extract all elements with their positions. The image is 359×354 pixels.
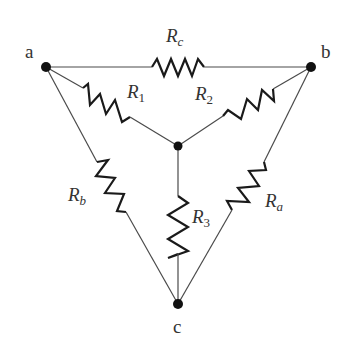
node-c-label: c (173, 317, 181, 336)
resistor-r1 (46, 67, 178, 146)
label-rb-base: R (68, 184, 80, 205)
label-ra-base: R (265, 190, 277, 211)
node-c-dot (173, 299, 183, 309)
label-r3-sub: 3 (204, 215, 211, 230)
node-b-label: b (321, 42, 331, 61)
node-b-dot (306, 62, 316, 72)
label-rc: Rc (166, 26, 183, 48)
node-a-dot (41, 62, 51, 72)
label-r1: R1 (127, 82, 145, 104)
resistor-r3 (168, 146, 188, 304)
label-rb-sub: b (80, 193, 87, 208)
label-rb: Rb (68, 185, 86, 207)
label-ra-sub: a (277, 199, 284, 214)
label-r1-sub: 1 (139, 90, 146, 105)
label-r2: R2 (195, 84, 213, 106)
label-r2-sub: 2 (207, 92, 214, 107)
label-rc-sub: c (178, 34, 184, 49)
label-rc-base: R (166, 25, 178, 46)
label-r3-base: R (192, 206, 204, 227)
label-r3: R3 (192, 207, 210, 229)
label-r1-base: R (127, 81, 139, 102)
label-ra: Ra (265, 191, 283, 213)
node-a-label: a (25, 42, 33, 61)
delta-wye-circuit-diagram: a b c Rc R1 R2 R3 Rb Ra (0, 0, 359, 354)
resistor-rb (46, 67, 178, 304)
label-r2-base: R (195, 83, 207, 104)
circuit-drawing (0, 0, 359, 354)
node-center-dot (174, 142, 183, 151)
resistor-rc (46, 59, 311, 76)
